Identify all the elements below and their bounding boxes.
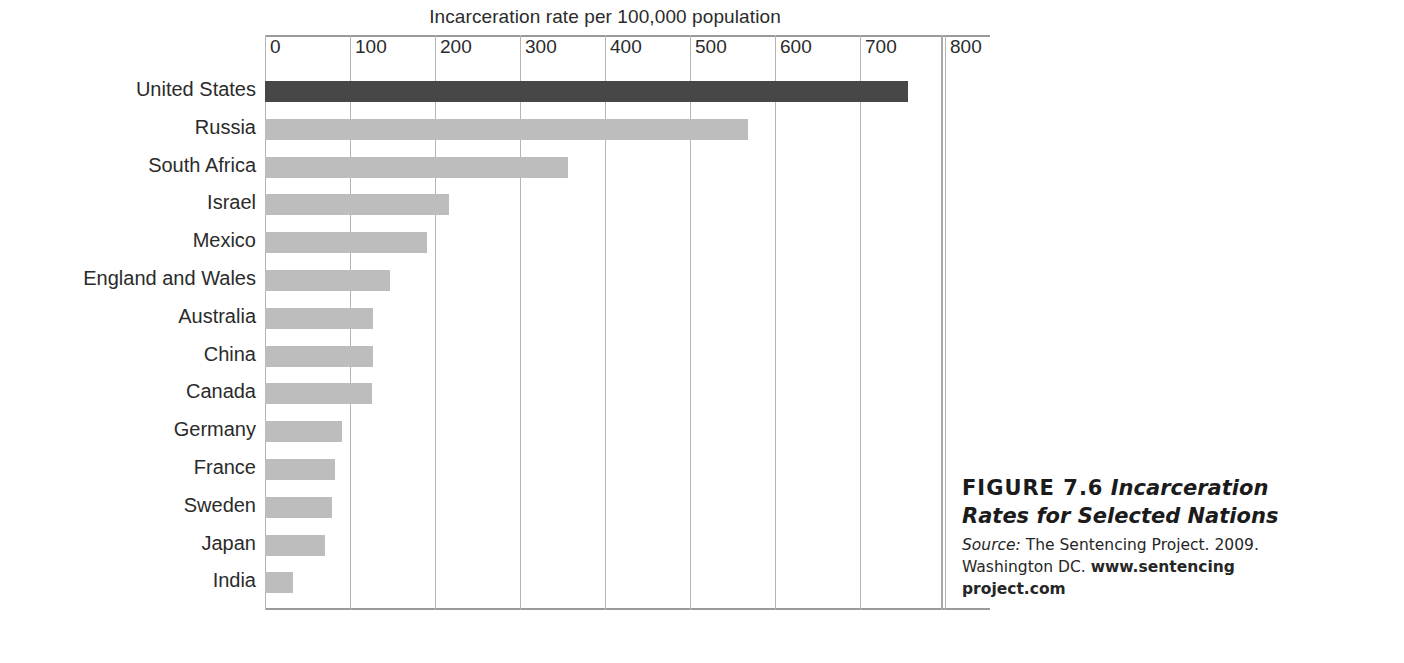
category-label-sweden: Sweden	[0, 494, 256, 517]
x-tick-label: 300	[525, 36, 557, 58]
bar-row	[265, 188, 945, 226]
category-label-australia: Australia	[0, 305, 256, 328]
figure-title-line2: Rates for Selected Nations	[962, 504, 1278, 528]
category-label-china: China	[0, 343, 256, 366]
bar-india	[265, 572, 293, 593]
bar-germany	[265, 421, 342, 442]
category-label-france: France	[0, 456, 256, 479]
bar-row	[265, 151, 945, 189]
category-label-south-africa: South Africa	[0, 154, 256, 177]
caption-source: Source: The Sentencing Project. 2009. Wa…	[962, 534, 1392, 600]
bar-row	[265, 113, 945, 151]
category-label-mexico: Mexico	[0, 229, 256, 252]
bar-sweden	[265, 497, 332, 518]
x-tick-label: 700	[865, 36, 897, 58]
figure-number: FIGURE 7.6	[962, 476, 1103, 500]
bar-japan	[265, 535, 325, 556]
x-tick-label: 0	[270, 36, 281, 58]
x-tick-label: 400	[610, 36, 642, 58]
source-text: The Sentencing Project. 2009.	[1026, 536, 1259, 554]
figure-container: Incarceration rate per 100,000 populatio…	[0, 0, 1404, 663]
caption-divider	[941, 35, 943, 610]
x-tick-label: 200	[440, 36, 472, 58]
plot-area: 0100200300400500600700800	[265, 35, 945, 610]
category-label-germany: Germany	[0, 418, 256, 441]
axis-title: Incarceration rate per 100,000 populatio…	[265, 6, 945, 28]
bar-row	[265, 453, 945, 491]
bar-row	[265, 566, 945, 604]
bar-row	[265, 302, 945, 340]
x-tick-label: 800	[950, 36, 982, 58]
bar-france	[265, 459, 335, 480]
source-label: Source:	[962, 536, 1021, 554]
bar-south-africa	[265, 157, 568, 178]
category-label-israel: Israel	[0, 191, 256, 214]
source-location: Washington DC.	[962, 558, 1086, 576]
bar-united-states	[265, 81, 908, 102]
category-label-japan: Japan	[0, 532, 256, 555]
axis-bottom-rule	[265, 608, 990, 610]
bar-row	[265, 264, 945, 302]
x-tick-label: 600	[780, 36, 812, 58]
bar-row	[265, 75, 945, 113]
bar-row	[265, 491, 945, 529]
caption-title: FIGURE 7.6 Incarceration Rates for Selec…	[962, 474, 1392, 530]
gridline	[945, 35, 946, 610]
bar-russia	[265, 119, 748, 140]
figure-title-line1: Incarceration	[1111, 476, 1269, 500]
bar-row	[265, 529, 945, 567]
x-tick-label: 100	[355, 36, 387, 58]
bar-row	[265, 415, 945, 453]
category-label-united-states: United States	[0, 78, 256, 101]
bar-israel	[265, 194, 449, 215]
bar-row	[265, 340, 945, 378]
category-label-england-and-wales: England and Wales	[0, 267, 256, 290]
bar-mexico	[265, 232, 427, 253]
x-tick-label: 500	[695, 36, 727, 58]
category-label-canada: Canada	[0, 380, 256, 403]
bar-row	[265, 226, 945, 264]
category-label-india: India	[0, 569, 256, 592]
bars-layer	[265, 75, 945, 605]
source-url-part2[interactable]: project.com	[962, 580, 1066, 598]
category-label-russia: Russia	[0, 116, 256, 139]
bar-china	[265, 346, 373, 367]
source-url-part1[interactable]: www.sentencing	[1091, 558, 1235, 576]
bar-row	[265, 377, 945, 415]
bar-england-and-wales	[265, 270, 390, 291]
bar-canada	[265, 383, 372, 404]
figure-caption: FIGURE 7.6 Incarceration Rates for Selec…	[962, 474, 1392, 600]
bar-australia	[265, 308, 373, 329]
